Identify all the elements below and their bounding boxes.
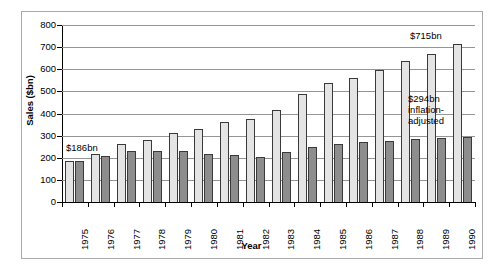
y-axis-tick bbox=[57, 47, 62, 48]
x-axis-tick-label: 1986 bbox=[363, 210, 374, 250]
y-axis-tick-label: 700 bbox=[4, 41, 56, 52]
y-axis-tick bbox=[57, 69, 62, 70]
x-axis-tick-label: 1982 bbox=[260, 210, 271, 250]
bar-group[interactable] bbox=[194, 25, 213, 202]
bar-group[interactable] bbox=[375, 25, 394, 202]
x-axis-tick-label: 1987 bbox=[389, 210, 400, 250]
chart-figure: Sales ($bn) 0100200300400500600700800 Ye… bbox=[0, 0, 503, 273]
bar-sales[interactable] bbox=[65, 161, 74, 202]
x-axis-tick bbox=[191, 202, 192, 207]
bar-inflation-adjusted[interactable] bbox=[411, 139, 420, 202]
bar-sales[interactable] bbox=[246, 119, 255, 202]
x-axis-tick-label: 1979 bbox=[182, 210, 193, 250]
x-axis-tick bbox=[294, 202, 295, 207]
y-axis-tick-label: 200 bbox=[4, 152, 56, 163]
bar-group[interactable] bbox=[272, 25, 291, 202]
bar-inflation-adjusted[interactable] bbox=[256, 157, 265, 202]
bar-inflation-adjusted[interactable] bbox=[127, 151, 136, 202]
x-axis-tick-label: 1985 bbox=[337, 210, 348, 250]
bar-group[interactable] bbox=[91, 25, 110, 202]
bar-sales[interactable] bbox=[401, 61, 410, 202]
bar-inflation-adjusted[interactable] bbox=[179, 151, 188, 202]
bar-group[interactable] bbox=[349, 25, 368, 202]
y-axis-tick-labels: 0100200300400500600700800 bbox=[0, 25, 56, 202]
bar-group[interactable] bbox=[65, 25, 84, 202]
bar-sales[interactable] bbox=[220, 122, 229, 202]
y-axis-tick-label: 500 bbox=[4, 85, 56, 96]
x-axis-tick-label: 1977 bbox=[131, 210, 142, 250]
bar-inflation-adjusted[interactable] bbox=[359, 142, 368, 202]
bar-inflation-adjusted[interactable] bbox=[75, 161, 84, 202]
x-axis-tick bbox=[114, 202, 115, 207]
x-axis-tick bbox=[217, 202, 218, 207]
bar-sales[interactable] bbox=[427, 54, 436, 202]
x-axis-tick bbox=[372, 202, 373, 207]
bar-sales[interactable] bbox=[117, 144, 126, 202]
annotation-first-value: $186bn bbox=[66, 142, 98, 153]
bar-group[interactable] bbox=[324, 25, 343, 202]
y-axis-tick bbox=[57, 114, 62, 115]
x-axis-tick-label: 1988 bbox=[414, 210, 425, 250]
bar-sales[interactable] bbox=[298, 94, 307, 202]
x-axis-tick-label: 1984 bbox=[311, 210, 322, 250]
x-axis-tick bbox=[346, 202, 347, 207]
bar-sales[interactable] bbox=[194, 129, 203, 202]
x-axis-tick-label: 1976 bbox=[105, 210, 116, 250]
bar-group[interactable] bbox=[220, 25, 239, 202]
y-axis-tick bbox=[57, 136, 62, 137]
x-axis-tick bbox=[88, 202, 89, 207]
bar-sales[interactable] bbox=[143, 140, 152, 202]
x-axis-tick bbox=[243, 202, 244, 207]
x-axis-tick-label: 1990 bbox=[466, 210, 477, 250]
bar-inflation-adjusted[interactable] bbox=[334, 144, 343, 202]
x-axis-tick bbox=[320, 202, 321, 207]
bar-inflation-adjusted[interactable] bbox=[437, 138, 446, 202]
y-axis-tick bbox=[57, 91, 62, 92]
x-axis-tick bbox=[475, 202, 476, 207]
bar-inflation-adjusted[interactable] bbox=[308, 147, 317, 202]
y-axis-tick-label: 600 bbox=[4, 63, 56, 74]
y-axis-tick-label: 300 bbox=[4, 130, 56, 141]
y-axis-tick-label: 400 bbox=[4, 108, 56, 119]
bar-sales[interactable] bbox=[91, 154, 100, 202]
bar-inflation-adjusted[interactable] bbox=[230, 155, 239, 202]
bar-inflation-adjusted[interactable] bbox=[282, 152, 291, 202]
x-axis-tick bbox=[62, 202, 63, 207]
x-axis-tick bbox=[423, 202, 424, 207]
x-axis-tick-label: 1980 bbox=[208, 210, 219, 250]
bar-group[interactable] bbox=[246, 25, 265, 202]
x-axis-tick-label: 1989 bbox=[440, 210, 451, 250]
y-axis-tick-label: 100 bbox=[4, 174, 56, 185]
annotation-peak-value: $715bn bbox=[410, 30, 442, 41]
x-axis-tick bbox=[398, 202, 399, 207]
y-axis-tick bbox=[57, 25, 62, 26]
bar-sales[interactable] bbox=[169, 133, 178, 202]
bar-inflation-adjusted[interactable] bbox=[463, 137, 472, 202]
bar-inflation-adjusted[interactable] bbox=[385, 141, 394, 202]
bar-sales[interactable] bbox=[375, 70, 384, 202]
bar-sales[interactable] bbox=[324, 83, 333, 202]
y-axis-tick-label: 0 bbox=[4, 196, 56, 207]
x-axis-tick bbox=[449, 202, 450, 207]
bar-sales[interactable] bbox=[272, 110, 281, 202]
x-axis-tick-label: 1975 bbox=[79, 210, 90, 250]
x-axis-tick-label: 1978 bbox=[156, 210, 167, 250]
y-axis-tick bbox=[57, 180, 62, 181]
x-axis-tick bbox=[139, 202, 140, 207]
bar-inflation-adjusted[interactable] bbox=[204, 154, 213, 202]
bar-group[interactable] bbox=[143, 25, 162, 202]
x-axis-title: Year bbox=[0, 240, 503, 251]
annotation-inflation-adjusted: $294bn inflation-adjusted bbox=[408, 93, 470, 126]
bar-sales[interactable] bbox=[349, 78, 358, 202]
bar-inflation-adjusted[interactable] bbox=[101, 156, 110, 202]
x-axis-tick-label: 1983 bbox=[285, 210, 296, 250]
bar-group[interactable] bbox=[298, 25, 317, 202]
y-axis-tick-label: 800 bbox=[4, 19, 56, 30]
x-axis-tick bbox=[269, 202, 270, 207]
bar-inflation-adjusted[interactable] bbox=[153, 151, 162, 202]
bar-group[interactable] bbox=[117, 25, 136, 202]
bar-group[interactable] bbox=[169, 25, 188, 202]
x-axis-tick-label: 1981 bbox=[234, 210, 245, 250]
x-axis-tick bbox=[165, 202, 166, 207]
y-axis-tick bbox=[57, 158, 62, 159]
